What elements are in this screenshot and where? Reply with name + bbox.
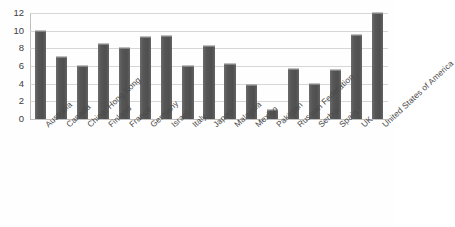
bar-top-highlight — [140, 36, 151, 38]
bar-top-highlight — [56, 56, 67, 58]
x-axis-tick-labels: AustraliaCanadaChina, Hong KongFinlandFr… — [30, 120, 388, 220]
y-axis-tick-label: 8 — [19, 42, 24, 53]
bar-top-highlight — [372, 12, 383, 14]
bar[interactable] — [372, 13, 383, 119]
bar-top-highlight — [288, 68, 299, 70]
y-axis-tick-label: 10 — [13, 25, 24, 36]
y-axis-tick-label: 12 — [13, 7, 24, 18]
y-axis-tick-label: 0 — [19, 113, 24, 124]
x-axis-tick-label: United States of America — [380, 58, 455, 129]
bar-top-highlight — [203, 45, 214, 47]
bar-top-highlight — [77, 65, 88, 67]
bar-top-highlight — [224, 63, 235, 65]
bar-slot[interactable] — [351, 13, 362, 119]
bar-top-highlight — [309, 83, 320, 85]
y-axis-tick-label: 4 — [19, 78, 24, 89]
bar-slot[interactable] — [330, 13, 341, 119]
y-axis-tick-labels: 024681012 — [0, 6, 27, 126]
y-axis-tick-label: 2 — [19, 95, 24, 106]
bar-slot[interactable] — [372, 13, 383, 119]
bar-top-highlight — [182, 65, 193, 67]
bar-slot[interactable] — [224, 13, 235, 119]
bar-slot[interactable] — [203, 13, 214, 119]
bar-top-highlight — [351, 34, 362, 36]
bar-slot[interactable] — [182, 13, 193, 119]
bar[interactable] — [203, 46, 214, 119]
bar-top-highlight — [330, 69, 341, 71]
bar[interactable] — [35, 31, 46, 119]
bar-top-highlight — [35, 30, 46, 32]
bar-top-highlight — [161, 35, 172, 37]
bar-top-highlight — [98, 43, 109, 45]
y-axis-tick-label: 6 — [19, 60, 24, 71]
bar-slot[interactable] — [35, 13, 46, 119]
bar-top-highlight — [119, 47, 130, 49]
bar-top-highlight — [246, 84, 257, 86]
